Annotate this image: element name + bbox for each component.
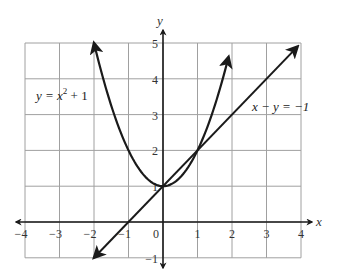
x-tick-label: 3 — [264, 227, 270, 241]
x-tick-label: −1 — [118, 227, 131, 241]
x-tick-label: −3 — [49, 227, 62, 241]
y-tick-label: 2 — [152, 144, 158, 158]
y-tick-label: 4 — [152, 73, 158, 87]
y-tick-label: 3 — [152, 109, 158, 123]
x-tick-label: 1 — [195, 227, 201, 241]
parabola-label-main: y = x — [34, 88, 63, 103]
y-tick-label: −1 — [145, 252, 158, 266]
coordinate-plane: x y 0 −4−3−2−11234 −112345 y = x2 + 1 x … — [0, 0, 338, 278]
x-axis-label: x — [315, 214, 322, 229]
x-tick-label: 4 — [298, 227, 304, 241]
x-tick-label: −4 — [15, 227, 28, 241]
parabola-label: y = x2 + 1 — [34, 86, 88, 103]
x-tick-labels: −4−3−2−11234 — [15, 227, 304, 241]
origin-label: 0 — [153, 227, 159, 241]
y-tick-label: 5 — [152, 37, 158, 51]
y-axis-label: y — [155, 13, 163, 28]
line-label: x − y = −1 — [251, 99, 309, 114]
x-tick-label: 2 — [229, 227, 235, 241]
parabola-label-tail: + 1 — [67, 88, 87, 103]
x-tick-label: −2 — [84, 227, 97, 241]
